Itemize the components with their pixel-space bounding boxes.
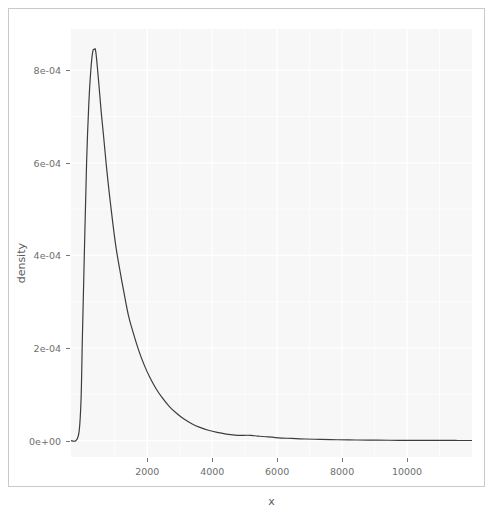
x-tick-label: 8000 [330,466,354,477]
x-tick-label: 4000 [200,466,224,477]
x-tick-mark [277,458,278,462]
x-tick-mark [147,458,148,462]
x-tick-mark [212,458,213,462]
y-tick-mark [66,348,70,349]
x-tick-label: 2000 [135,466,159,477]
x-tick-mark [407,458,408,462]
plot-frame: 0e+002e-044e-046e-048e-04 20004000600080… [8,8,485,487]
y-tick-mark [66,70,70,71]
plot-panel [71,29,472,457]
y-tick-label: 2e-04 [17,342,61,353]
x-tick-mark [342,458,343,462]
y-tick-mark [66,163,70,164]
y-tick-mark [66,255,70,256]
y-tick-label: 8e-04 [17,65,61,76]
x-tick-label: 10000 [392,466,422,477]
density-plot-figure: 0e+002e-044e-046e-048e-04 20004000600080… [0,0,493,512]
x-tick-label: 6000 [265,466,289,477]
y-tick-mark [66,441,70,442]
density-curve [71,29,472,457]
x-axis-title: x [71,495,472,508]
y-tick-label: 6e-04 [17,157,61,168]
density-line [71,49,472,442]
y-axis-title: density [15,243,28,283]
y-tick-label: 0e+00 [17,435,61,446]
